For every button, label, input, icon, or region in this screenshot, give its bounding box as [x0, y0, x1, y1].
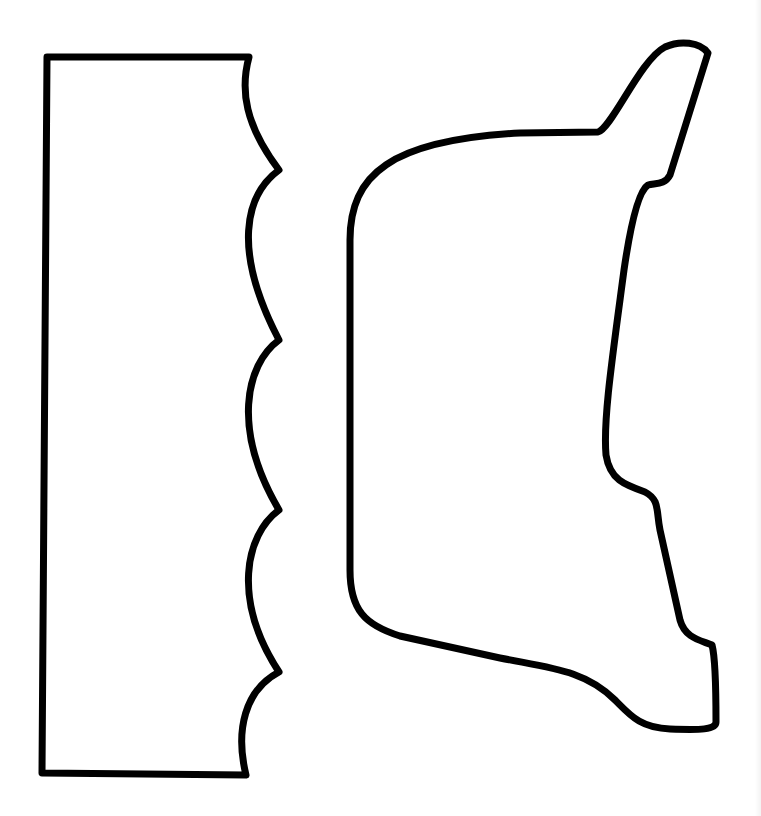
curved-tab-piece [350, 43, 716, 730]
scalloped-rectangle-piece [42, 57, 279, 775]
scan-page-edge [755, 0, 761, 816]
drawing-page [0, 0, 761, 816]
outline-drawing [0, 0, 761, 816]
